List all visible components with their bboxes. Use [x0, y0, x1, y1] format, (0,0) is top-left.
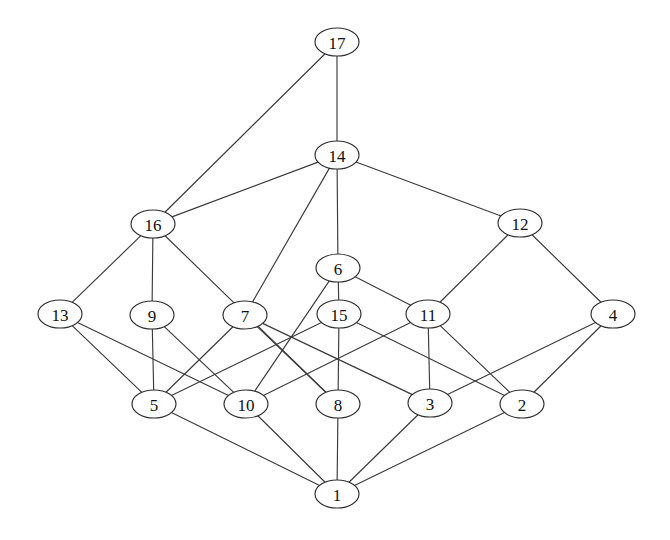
node-label-16: 16: [145, 216, 162, 235]
node-label-14: 14: [329, 147, 347, 166]
edge-14-7: [253, 168, 330, 302]
node-5[interactable]: 5: [132, 390, 176, 418]
node-label-17: 17: [329, 34, 347, 53]
hasse-diagram-svg: 1714161261397151145108321: [0, 0, 670, 540]
node-label-11: 11: [420, 306, 436, 325]
edge-15-5: [171, 323, 321, 396]
node-7[interactable]: 7: [223, 301, 267, 329]
node-label-3: 3: [426, 395, 435, 414]
edge-3-1: [349, 415, 418, 483]
node-label-1: 1: [333, 486, 342, 505]
node-16[interactable]: 16: [131, 210, 175, 238]
edge-6-10: [255, 281, 330, 391]
node-label-4: 4: [609, 306, 618, 325]
edge-16-9: [152, 238, 153, 301]
edge-6-11: [355, 277, 411, 305]
node-8[interactable]: 8: [316, 390, 360, 418]
edge-16-13: [72, 236, 141, 303]
node-label-8: 8: [334, 396, 343, 415]
node-label-5: 5: [150, 396, 159, 415]
node-14[interactable]: 14: [315, 141, 359, 169]
node-11[interactable]: 11: [406, 300, 450, 328]
node-3[interactable]: 3: [408, 389, 452, 417]
node-12[interactable]: 12: [498, 209, 542, 237]
node-1[interactable]: 1: [315, 480, 359, 508]
node-6[interactable]: 6: [316, 254, 360, 282]
edge-8-1: [337, 418, 338, 480]
edge-14-6: [337, 169, 338, 254]
edge-14-16: [172, 162, 318, 217]
node-label-15: 15: [331, 306, 348, 325]
node-13[interactable]: 13: [38, 300, 82, 328]
edge-14-12: [356, 162, 501, 216]
node-label-7: 7: [241, 307, 250, 326]
node-15[interactable]: 15: [317, 300, 361, 328]
edge-15-2: [356, 323, 504, 396]
edge-13-5: [72, 326, 142, 393]
node-4[interactable]: 4: [591, 300, 635, 328]
edge-2-1: [354, 413, 504, 486]
edge-11-3: [428, 328, 429, 389]
edge-12-4: [532, 235, 601, 303]
edge-4-3: [447, 323, 595, 395]
node-2[interactable]: 2: [500, 390, 544, 418]
edge-11-10: [263, 323, 410, 396]
edge-11-2: [440, 326, 510, 393]
edge-17-16: [165, 54, 325, 212]
edge-12-11: [440, 235, 508, 302]
node-label-9: 9: [148, 307, 157, 326]
node-label-6: 6: [334, 260, 343, 279]
node-label-2: 2: [518, 396, 527, 415]
node-label-12: 12: [512, 215, 529, 234]
node-9[interactable]: 9: [130, 301, 174, 329]
edge-5-1: [171, 413, 319, 486]
node-17[interactable]: 17: [315, 28, 359, 56]
edge-9-5: [152, 329, 153, 390]
node-label-13: 13: [52, 306, 69, 325]
lattice-diagram-canvas: 1714161261397151145108321: [0, 0, 670, 540]
node-10[interactable]: 10: [224, 390, 268, 418]
node-label-10: 10: [238, 396, 255, 415]
